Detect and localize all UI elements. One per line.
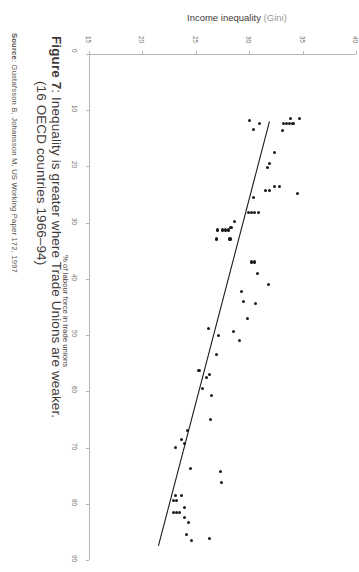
scatter-point	[232, 330, 235, 333]
scatter-point	[289, 117, 292, 120]
scatter-point	[291, 122, 294, 125]
scatter-point	[208, 537, 211, 540]
y-tick	[86, 448, 89, 449]
x-tick-label: 25	[192, 36, 199, 43]
y-tick-label: 40	[71, 274, 78, 281]
scatter-point	[210, 394, 213, 397]
scatter-point	[252, 196, 255, 199]
scatter-point	[258, 122, 261, 125]
y-tick-label: 10	[71, 105, 78, 112]
scatter-point	[175, 499, 178, 502]
y-tick	[86, 504, 89, 505]
scatter-point	[216, 228, 219, 231]
scatter-point	[238, 339, 241, 342]
scatter-point	[180, 494, 183, 497]
trend-line	[0, 0, 359, 572]
scatter-point	[178, 511, 181, 514]
y-tick	[86, 166, 89, 167]
scatter-point	[190, 539, 193, 542]
y-tick-label: 20	[71, 161, 78, 168]
scatter-point	[215, 353, 218, 356]
scatter-point	[298, 117, 301, 120]
scatter-point	[252, 128, 255, 131]
x-tick	[142, 51, 143, 54]
scatter-point	[185, 533, 188, 536]
x-tick	[89, 51, 90, 54]
scatter-point	[189, 467, 192, 470]
y-tick	[86, 110, 89, 111]
scatter-point	[217, 334, 220, 337]
scatter-point	[208, 373, 211, 376]
scatter-point	[197, 369, 200, 372]
scatter-point	[268, 162, 271, 165]
scatter-point	[268, 189, 271, 192]
scatter-point	[240, 290, 243, 293]
y-tick	[86, 223, 89, 224]
y-tick-label: 90	[71, 555, 78, 562]
scatter-point	[257, 211, 260, 214]
scatter-point	[228, 237, 231, 240]
scatter-point	[215, 237, 218, 240]
scatter-point	[242, 300, 245, 303]
scatter-point	[207, 327, 210, 330]
x-axis-title-main: Income inequality	[187, 12, 261, 23]
scatter-point	[264, 189, 267, 192]
scatter-point	[253, 211, 256, 214]
scatter-point	[183, 516, 186, 519]
scatter-point	[273, 185, 276, 188]
x-tick-label: 35	[299, 36, 306, 43]
y-tick	[86, 391, 89, 392]
y-tick	[86, 335, 89, 336]
y-tick	[86, 279, 89, 280]
x-axis-title: Income inequality (Gini)	[187, 12, 359, 23]
scatter-point	[186, 429, 189, 432]
scatter-point	[246, 317, 249, 320]
y-tick-label: 70	[71, 443, 78, 450]
figure-page: Figure 7: Inequality is greater where Tr…	[0, 0, 359, 572]
y-tick-label: 60	[71, 386, 78, 393]
y-tick-label: 80	[71, 499, 78, 506]
y-tick-label: 50	[71, 330, 78, 337]
x-tick-label: 40	[352, 36, 359, 43]
scatter-point	[180, 438, 183, 441]
x-axis-line	[89, 54, 356, 55]
x-tick	[303, 51, 304, 54]
scatter-point	[233, 220, 236, 223]
scatter-point	[201, 387, 204, 390]
y-tick-label: 0	[71, 49, 78, 53]
scatter-point	[266, 166, 269, 169]
y-tick-label: 30	[71, 218, 78, 225]
scatter-point	[267, 283, 270, 286]
scatter-point	[220, 481, 223, 484]
scatter-point	[174, 494, 177, 497]
scatter-point	[278, 185, 281, 188]
scatter-point	[209, 418, 212, 421]
scatter-point	[254, 302, 257, 305]
x-tick-label: 30	[245, 36, 252, 43]
scatter-point	[273, 151, 276, 154]
scatter-point	[187, 521, 190, 524]
scatter-point	[229, 226, 232, 229]
scatter-point	[219, 470, 222, 473]
scatter-point	[183, 506, 186, 509]
x-tick-label: 15	[85, 36, 92, 43]
scatter-point	[281, 129, 284, 132]
x-axis-title-unit: (Gini)	[264, 12, 287, 23]
y-axis-line	[89, 54, 90, 560]
y-tick	[86, 54, 89, 55]
x-tick-label: 20	[138, 36, 145, 43]
scatter-point	[174, 446, 177, 449]
y-tick	[86, 560, 89, 561]
x-tick	[249, 51, 250, 54]
x-tick	[196, 51, 197, 54]
scatter-point	[296, 192, 299, 195]
scatter-chart: Income inequality (Gini) % of labour for…	[0, 0, 359, 572]
scatter-point	[183, 442, 186, 445]
x-tick	[356, 51, 357, 54]
y-axis-title: % of labour force in trade unions	[61, 255, 70, 367]
scatter-point	[253, 260, 256, 263]
scatter-point	[248, 119, 251, 122]
scatter-point	[205, 376, 208, 379]
scatter-point	[256, 272, 259, 275]
